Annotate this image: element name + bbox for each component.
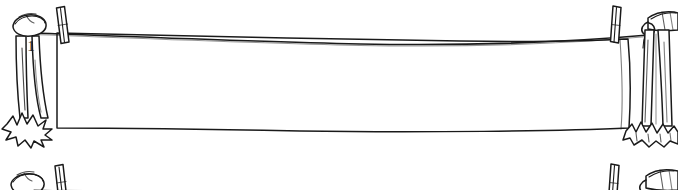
repeat-right-clothespin — [609, 164, 620, 190]
repeat-left-post-cap — [11, 172, 44, 190]
banner — [57, 33, 630, 132]
right-clothespin — [611, 6, 622, 43]
repeat-strip — [11, 164, 678, 190]
left-post-cap — [13, 14, 46, 37]
repeat-right-tied-cloth — [640, 170, 678, 190]
right-post — [623, 12, 678, 147]
left-post-label: 1 — [27, 38, 35, 54]
repeat-left-clothespin — [55, 165, 67, 191]
illustration-canvas: 1 — [0, 0, 678, 190]
